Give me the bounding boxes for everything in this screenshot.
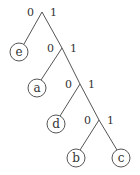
edge-label: 0 — [47, 42, 54, 55]
edge-label: 1 — [88, 78, 95, 91]
edge-label: 1 — [70, 42, 77, 55]
edge-label: 0 — [27, 6, 34, 19]
edge-label: 1 — [107, 114, 114, 127]
leaf-label: b — [72, 151, 80, 165]
edge-label: 1 — [50, 6, 57, 19]
leaf-label: a — [33, 81, 40, 95]
edge-label: 0 — [65, 78, 72, 91]
code-tree: 0 1 0 1 0 1 0 1 e a d b c — [0, 0, 140, 175]
leaf-label: d — [52, 117, 60, 131]
leaf-label: c — [118, 151, 125, 165]
leaf-label: e — [15, 45, 22, 59]
edge-label: 0 — [84, 114, 91, 127]
